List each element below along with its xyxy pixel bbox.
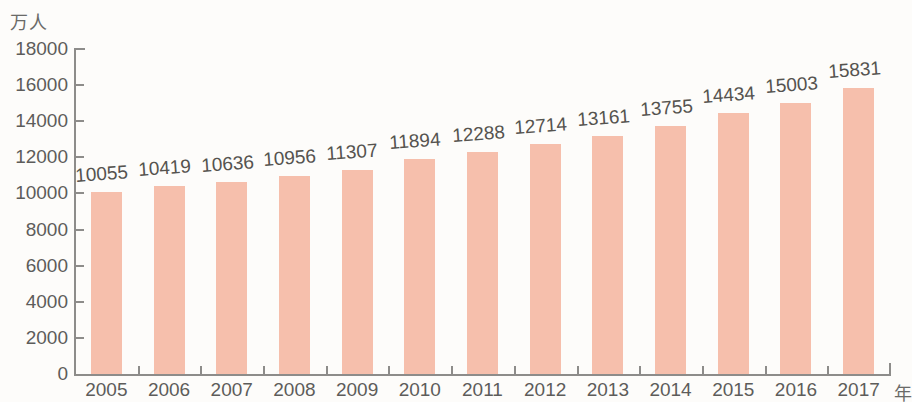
x-axis-category-label: 2005 — [75, 379, 138, 401]
bar-value-label: 15003 — [764, 72, 818, 98]
y-axis-unit-label: 万人 — [10, 8, 48, 34]
y-axis-tick — [74, 156, 84, 158]
y-axis-tick-label: 0 — [4, 363, 68, 385]
x-axis-right-cap — [889, 363, 891, 376]
x-axis-category-label: 2012 — [514, 379, 577, 401]
bar-value-label: 12714 — [514, 114, 568, 140]
bar-value-label: 14434 — [702, 83, 756, 109]
bar — [655, 126, 686, 374]
bar-value-label: 11894 — [388, 129, 441, 155]
y-axis-tick-label: 2000 — [4, 327, 68, 349]
bar-value-label: 10636 — [200, 151, 254, 177]
y-axis-line — [74, 48, 76, 376]
x-axis-tick — [765, 366, 767, 375]
bar-value-label: 10055 — [75, 162, 129, 188]
x-axis-category-label: 2009 — [326, 379, 389, 401]
bar — [843, 88, 874, 374]
x-axis-tick — [514, 366, 516, 375]
y-axis-tick-label: 8000 — [4, 219, 68, 241]
x-axis-category-label: 2007 — [200, 379, 263, 401]
x-axis-tick — [639, 366, 641, 375]
x-axis-category-label: 2013 — [577, 379, 640, 401]
x-axis-category-label: 2008 — [263, 379, 326, 401]
bar — [467, 152, 498, 374]
y-axis-tick-label: 16000 — [4, 74, 68, 96]
bar-value-label: 13755 — [639, 95, 693, 121]
y-axis-tick — [74, 301, 84, 303]
bar — [592, 136, 623, 374]
bar — [279, 176, 310, 374]
bar — [404, 159, 435, 374]
bar-value-label: 15831 — [827, 58, 881, 84]
x-axis-tick — [138, 366, 140, 375]
y-axis-tick — [74, 265, 84, 267]
x-axis-tick — [451, 366, 453, 375]
y-axis-tick-label: 10000 — [4, 182, 68, 204]
bar — [780, 103, 811, 374]
y-axis-tick-label: 18000 — [4, 38, 68, 60]
y-axis-tick — [74, 229, 84, 231]
y-axis-tick-label: 6000 — [4, 255, 68, 277]
x-axis-category-label: 2016 — [765, 379, 828, 401]
x-axis-unit-label: 年 — [894, 379, 912, 402]
x-axis-tick — [388, 366, 390, 375]
x-axis-category-label: 2010 — [388, 379, 451, 401]
x-axis-tick — [702, 366, 704, 375]
bar-value-label: 10956 — [263, 146, 317, 172]
x-axis-tick — [827, 366, 829, 375]
bar — [91, 192, 122, 374]
bar — [342, 170, 373, 374]
x-axis-tick — [263, 366, 265, 375]
x-axis-tick — [200, 366, 202, 375]
bar-value-label: 10419 — [137, 155, 191, 181]
bar-value-label: 11307 — [326, 139, 379, 165]
bar — [216, 182, 247, 374]
y-axis-tick — [74, 337, 84, 339]
x-axis-category-label: 2017 — [827, 379, 890, 401]
x-axis-category-label: 2015 — [702, 379, 765, 401]
bar-value-label: 13161 — [576, 106, 630, 132]
x-axis-tick — [326, 366, 328, 375]
y-axis-tick — [74, 192, 84, 194]
bar — [718, 113, 749, 374]
y-axis-tick-label: 12000 — [4, 146, 68, 168]
bar — [530, 144, 561, 374]
x-axis-tick — [577, 366, 579, 375]
y-axis-tick — [74, 48, 84, 50]
x-axis-line — [74, 374, 891, 376]
y-axis-tick — [74, 120, 84, 122]
y-axis-tick-label: 14000 — [4, 110, 68, 132]
y-axis-tick-label: 4000 — [4, 291, 68, 313]
y-axis-tick — [74, 84, 84, 86]
x-axis-category-label: 2014 — [639, 379, 702, 401]
bar-value-label: 12288 — [451, 121, 505, 147]
x-axis-category-label: 2011 — [451, 379, 514, 401]
x-axis-category-label: 2006 — [138, 379, 201, 401]
bar — [154, 186, 185, 374]
